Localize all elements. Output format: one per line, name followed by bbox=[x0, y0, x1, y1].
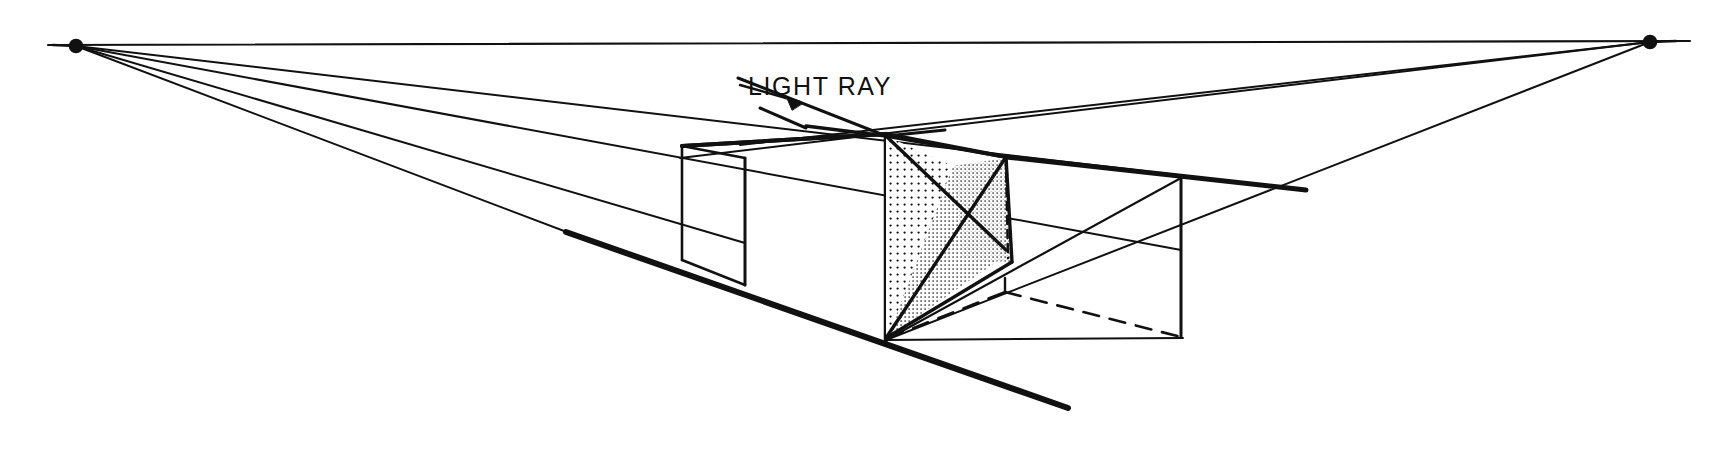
right-construction-base bbox=[886, 338, 1183, 340]
diagram-canvas: LIGHT RAY bbox=[0, 0, 1714, 451]
drawing-ink: LIGHT RAY bbox=[48, 36, 1690, 409]
box-top-front-edge bbox=[682, 134, 886, 146]
hidden-base-right bbox=[1005, 292, 1181, 337]
light-ray-label: LIGHT RAY bbox=[748, 72, 892, 100]
left-vp-ray-mid bbox=[76, 46, 1181, 250]
horizon-line bbox=[48, 41, 1690, 45]
perspective-drawing: LIGHT RAY bbox=[0, 0, 1714, 451]
right-vp-tick bbox=[1650, 41, 1676, 42]
left-vp-ray-low bbox=[76, 46, 745, 243]
left-vp-tick bbox=[53, 45, 76, 46]
box-top-far-edge bbox=[1006, 157, 1306, 190]
right-vp-ray-upper bbox=[680, 42, 1650, 158]
light-ray-crossing bbox=[760, 108, 806, 128]
